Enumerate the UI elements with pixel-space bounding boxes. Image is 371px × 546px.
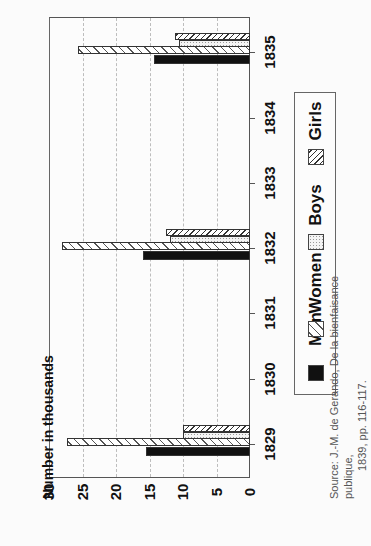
bar-men-1835 — [154, 55, 250, 64]
legend-label-girls: Girls — [306, 96, 326, 146]
category-tick — [250, 183, 255, 184]
category-label: 1829 — [262, 424, 278, 464]
value-tick-label: 15 — [144, 483, 156, 501]
category-tick — [250, 52, 255, 53]
category-label: 1834 — [262, 98, 278, 138]
value-tick-label: 25 — [77, 483, 89, 501]
category-tick — [250, 248, 255, 249]
legend-label-women: Women — [306, 248, 326, 318]
category-tick — [250, 313, 255, 314]
bar-girls-1829 — [183, 425, 250, 432]
bar-men-1832 — [143, 251, 250, 260]
bar-girls-1835 — [175, 33, 250, 40]
category-label: 1835 — [262, 32, 278, 72]
bar-girls-1832 — [166, 229, 250, 236]
bar-women-1829 — [67, 438, 250, 446]
value-tick-label: 0 — [244, 483, 256, 501]
category-label: 1833 — [262, 163, 278, 203]
source-caption: Source: J.-M. de Gerando, De la bienfais… — [327, 259, 361, 499]
boys-swatch-icon — [308, 234, 324, 250]
category-tick — [250, 379, 255, 380]
value-tick-label: 20 — [110, 483, 122, 501]
value-tick-label: 5 — [211, 483, 223, 501]
girls-swatch-icon — [308, 149, 324, 165]
category-label: 1830 — [262, 359, 278, 399]
category-label: 1832 — [262, 228, 278, 268]
value-axis-title: Number in thousands — [39, 299, 57, 499]
bar-women-1835 — [78, 46, 250, 54]
category-label: 1831 — [262, 293, 278, 333]
bar-boys-1832 — [170, 236, 250, 243]
bar-men-1829 — [146, 447, 250, 456]
legend-label-boys: Boys — [306, 180, 326, 230]
women-swatch-icon — [308, 321, 324, 337]
bar-women-1832 — [62, 242, 250, 250]
category-tick — [250, 444, 255, 445]
source-line-1: Source: J.-M. de Gerando, De la bienfais… — [327, 259, 355, 499]
bar-boys-1835 — [179, 40, 250, 47]
source-line-2: 1839, pp. 116-117. — [355, 259, 369, 499]
men-swatch-icon — [308, 365, 324, 381]
category-tick — [250, 118, 255, 119]
bar-boys-1829 — [183, 432, 250, 439]
value-tick-label: 10 — [177, 483, 189, 501]
